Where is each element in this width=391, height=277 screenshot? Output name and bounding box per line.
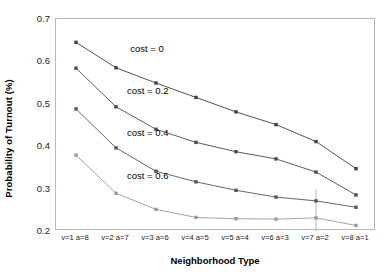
x-axis-tick: v=7 a=2	[301, 233, 328, 242]
data-point-marker	[234, 150, 237, 153]
data-point-marker	[274, 123, 277, 126]
data-point-marker	[114, 105, 117, 108]
data-point-marker	[314, 199, 317, 202]
x-axis-title: Neighborhood Type	[55, 255, 375, 266]
series-4	[74, 153, 357, 227]
data-point-marker	[74, 107, 77, 110]
series-2	[74, 66, 357, 196]
x-axis-tick: v=6 a=3	[261, 233, 288, 242]
data-point-marker	[354, 206, 357, 209]
y-axis-tick: 0.2	[6, 225, 50, 236]
data-point-marker	[74, 153, 77, 156]
data-point-marker	[274, 217, 277, 220]
data-point-marker	[274, 195, 277, 198]
plot-area	[55, 18, 375, 230]
x-axis-tick: v=5 a=4	[221, 233, 248, 242]
data-point-marker	[114, 146, 117, 149]
data-point-marker	[234, 217, 237, 220]
data-point-marker	[234, 189, 237, 192]
series-annotation-3: cost = 0.4	[127, 127, 168, 138]
y-axis-tick: 0.4	[6, 140, 50, 151]
y-axis-tick: 0.7	[6, 13, 50, 24]
data-point-marker	[354, 193, 357, 196]
y-axis-tick: 0.3	[6, 182, 50, 193]
series-line	[76, 42, 356, 168]
y-axis-tick-labels: 0.20.30.40.50.60.7	[0, 0, 50, 277]
data-point-marker	[74, 66, 77, 69]
y-axis-tick: 0.5	[6, 97, 50, 108]
data-point-marker	[194, 96, 197, 99]
data-point-marker	[194, 141, 197, 144]
series-annotation-4: cost = 0.6	[127, 170, 168, 181]
data-point-marker	[354, 167, 357, 170]
series-annotation-1: cost = 0	[130, 43, 164, 54]
data-point-marker	[314, 170, 317, 173]
data-point-marker	[154, 208, 157, 211]
y-axis-tick: 0.6	[6, 55, 50, 66]
series-line	[76, 109, 356, 207]
data-point-marker	[114, 192, 117, 195]
series-line	[76, 68, 356, 195]
data-point-marker	[314, 140, 317, 143]
data-point-marker	[74, 41, 77, 44]
x-axis-tick: v=1 a=8	[61, 233, 88, 242]
data-point-marker	[354, 224, 357, 227]
data-point-marker	[154, 81, 157, 84]
chart-canvas	[56, 19, 376, 231]
x-axis-tick: v=3 a=6	[141, 233, 168, 242]
data-point-marker	[274, 157, 277, 160]
x-axis-tick: v=8 a=1	[341, 233, 368, 242]
x-axis-tick: v=4 a=5	[181, 233, 208, 242]
data-point-marker	[194, 216, 197, 219]
series-line	[76, 155, 356, 225]
series-annotation-2: cost = 0.2	[127, 85, 168, 96]
x-axis-tick-labels: v=1 a=8v=2 a=7v=3 a=6v=4 a=5v=5 a=4v=6 a…	[55, 233, 375, 249]
data-point-marker	[194, 180, 197, 183]
data-point-marker	[114, 66, 117, 69]
x-axis-tick: v=2 a=7	[101, 233, 128, 242]
data-point-marker	[314, 216, 317, 219]
data-point-marker	[234, 110, 237, 113]
chart-container: Probability of Turnout (%) 0.20.30.40.50…	[0, 0, 391, 277]
